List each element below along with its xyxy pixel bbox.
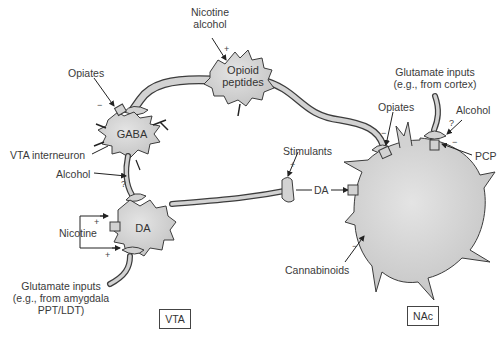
cannabinoids-label: Cannabinoids	[285, 264, 349, 276]
pcp-label: PCP	[475, 150, 497, 162]
nicotine-alcohol-line1: Nicotine	[180, 6, 240, 18]
stimulants-label: Stimulants	[283, 145, 332, 157]
glutamate-vta-label: Glutamate inputs (e.g., from amygdala PP…	[6, 280, 116, 316]
nicotine-alcohol-sign: +	[224, 44, 229, 54]
alcohol-nac-label: Alcohol	[456, 104, 490, 116]
alcohol-nac-sign: −	[452, 137, 457, 147]
glutamate-nac-line1: Glutamate inputs	[385, 66, 485, 78]
nicotine-da-sign: +	[94, 217, 99, 227]
gaba-label: GABA	[114, 128, 150, 140]
opiates-vta-sign: −	[97, 100, 102, 110]
opioid-to-nac-axon	[262, 80, 394, 153]
gaba-to-da-axon	[126, 156, 146, 201]
opioid-to-gaba-axon	[124, 80, 212, 115]
vta-interneuron-label: VTA interneuron	[10, 149, 85, 161]
nicotine-alcohol-line2: alcohol	[180, 18, 240, 30]
reward-circuit-diagram: Opioid peptides GABA DA Nicotine alcohol…	[0, 0, 502, 338]
da-projection-label: DA	[312, 184, 331, 196]
alcohol-vta-sign: ?	[121, 179, 126, 189]
glutamate-vta-line2: (e.g., from amygdala	[6, 292, 116, 304]
glutamate-vta-input	[110, 247, 144, 284]
opioid-line2: peptides	[218, 76, 268, 88]
da-label: DA	[128, 222, 158, 234]
glutamate-nac-input	[424, 96, 446, 139]
opiates-nac-sign: −	[381, 128, 386, 138]
nac-cell	[344, 122, 495, 300]
opioid-line1: Opioid	[218, 64, 268, 76]
alcohol-nac-question: ?	[449, 118, 454, 128]
cannabinoids-sign: −	[352, 241, 357, 251]
nac-region-box: NAc	[407, 306, 439, 326]
alcohol-vta-label: Alcohol	[56, 168, 90, 180]
stimulants-sign: +	[290, 160, 295, 170]
glutamate-vta-line3: PPT/LDT)	[6, 304, 116, 316]
vta-region-box: VTA	[159, 309, 191, 329]
glutamate-nac-line2: (e.g., from cortex)	[385, 78, 485, 90]
opiates-vta-label: Opiates	[68, 67, 104, 79]
glutamate-vta-line1: Glutamate inputs	[6, 280, 116, 292]
nicotine-glut-sign: +	[105, 250, 110, 260]
glutamate-nac-label: Glutamate inputs (e.g., from cortex)	[385, 66, 485, 90]
opioid-peptides-label: Opioid peptides	[218, 64, 268, 88]
nicotine-vta-label: Nicotine	[59, 227, 97, 239]
nicotine-alcohol-label: Nicotine alcohol	[180, 6, 240, 30]
opiates-nac-label: Opiates	[378, 101, 414, 113]
